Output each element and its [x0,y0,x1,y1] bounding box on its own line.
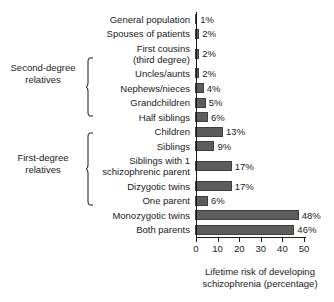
table-row: Siblings 9% [96,139,334,154]
group-bracket-second-degree [86,57,94,117]
bar-value-label: 17% [232,181,254,192]
bar-zone: 2% [195,27,334,42]
table-row: Nephews/nieces 4% [96,81,334,96]
x-axis-line [196,237,306,238]
table-row: Spouses of patients 2% [96,27,334,42]
x-axis-tick-label: 20 [227,243,251,255]
table-row: Dizygotic twins 17% [96,179,334,194]
category-label: Uncles/aunts [96,68,195,79]
bar-zone: 17% [195,179,334,194]
category-label: Grandchildren [96,97,195,108]
category-label: Both parents [96,224,195,235]
bar-value-label: 6% [208,195,225,206]
bar-zone: 17% [195,154,334,179]
bar-value-label: 9% [214,141,231,152]
bar [195,225,294,235]
x-axis-tick [304,238,305,242]
bar [195,181,232,191]
bar-value-label: 5% [206,97,223,108]
table-row: General population 1% [96,12,334,27]
table-row: One parent 6% [96,193,334,208]
bar-zone: 6% [195,110,334,125]
bar [195,210,299,220]
category-label: Children [96,126,195,137]
table-row: Half siblings 6% [96,110,334,125]
table-row: First cousins (third degree) 2% [96,41,334,66]
bar-rows: General population 1% Spouses of patient… [96,12,334,237]
bar-zone: 9% [195,139,334,154]
bar-zone: 13% [195,125,334,140]
x-axis-tick [218,238,219,242]
category-label: Dizygotic twins [96,181,195,192]
bar-value-label: 48% [299,210,321,221]
table-row: Children 13% [96,125,334,140]
bar-zone: 46% [195,223,334,238]
category-label: Siblings [96,141,195,152]
bar-zone: 2% [195,41,334,66]
group-bracket-first-degree [86,132,94,206]
category-label: One parent [96,195,195,206]
bar-zone: 2% [195,66,334,81]
x-axis-tick-label: 40 [270,243,294,255]
category-label: Siblings with 1 schizophrenic parent [96,155,195,177]
y-axis-line [196,12,197,238]
schizophrenia-risk-bar-chart: Second-degree relatives First-degree rel… [0,0,334,302]
bar-zone: 6% [195,193,334,208]
bar-value-label: 46% [294,224,316,235]
bar [195,141,214,151]
bar-value-label: 13% [223,126,245,137]
x-axis-tick [196,238,197,242]
bar-value-label: 6% [208,112,225,123]
table-row: Siblings with 1 schizophrenic parent 17% [96,154,334,179]
bar-zone: 4% [195,81,334,96]
category-label: Nephews/nieces [96,83,195,94]
x-axis-tick-label: 50 [292,243,316,255]
group-label-second-degree-relatives: Second-degree relatives [0,62,86,85]
table-row: Grandchildren 5% [96,95,334,110]
category-label: Monozygotic twins [96,210,195,221]
table-row: Uncles/aunts 2% [96,66,334,81]
bar-value-label: 1% [197,14,214,25]
bar-value-label: 17% [232,161,254,172]
x-axis-tick-label: 0 [184,243,208,255]
x-axis-tick [261,238,262,242]
bar-value-label: 2% [199,28,216,39]
bar-zone: 1% [195,12,334,27]
table-row: Monozygotic twins 48% [96,208,334,223]
bar-value-label: 2% [199,68,216,79]
x-axis-tick [239,238,240,242]
category-label: General population [96,14,195,25]
table-row: Both parents 46% [96,223,334,238]
bar-zone: 48% [195,208,334,223]
x-axis-title: Lifetime risk of developing schizophreni… [186,266,334,290]
group-label-first-degree-relatives: First-degree relatives [0,152,86,175]
bar [195,161,232,171]
category-label: First cousins (third degree) [96,43,195,65]
bar-zone: 5% [195,95,334,110]
bar-value-label: 4% [204,83,221,94]
bar-value-label: 2% [199,48,216,59]
x-axis-tick [282,238,283,242]
category-label: Half siblings [96,112,195,123]
category-label: Spouses of patients [96,28,195,39]
x-axis-tick-label: 30 [249,243,273,255]
bar [195,127,223,137]
x-axis-tick-label: 10 [206,243,230,255]
